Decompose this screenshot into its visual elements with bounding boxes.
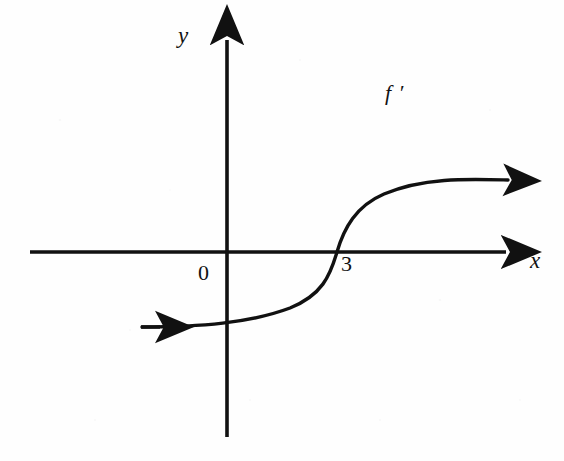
x-intercept-label: 3 [341,253,352,275]
figure-canvas: y x 0 3 f ′ [0,0,564,461]
graph-svg [0,0,564,461]
paper-speckle [59,59,521,421]
origin-label: 0 [198,262,209,284]
curve-label-f-prime: f ′ [385,82,404,104]
y-axis-label: y [178,24,188,47]
x-axis-label: x [530,249,540,272]
